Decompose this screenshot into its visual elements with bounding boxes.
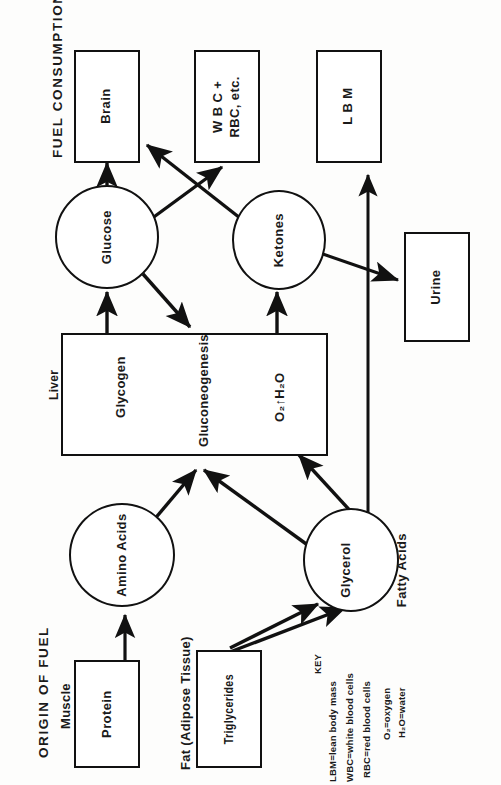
node-urine[interactable]: Urine — [404, 232, 470, 342]
group-label-fat-adipose-tissue: Fat (Adipose Tissue) — [178, 636, 193, 770]
key-entry-o2: O₂=oxygen — [381, 688, 392, 740]
node-amino-acids[interactable]: Amino Acids — [69, 503, 175, 607]
group-label-muscle: Muscle — [58, 683, 73, 729]
node-liver-compartment[interactable] — [61, 333, 328, 456]
key-entry-lbm: LBM=lean body mass — [327, 681, 338, 782]
node-ketones-label: Ketones — [271, 213, 287, 267]
arrow-glucose-to-gluconeogenesis — [143, 274, 190, 327]
node-protein[interactable]: Protein — [74, 660, 140, 768]
node-glycerol-fatty-acids[interactable]: Glycerol Fatty Acids — [303, 508, 399, 612]
page-title-fuel-consumption: FUEL CONSUMPTION — [50, 0, 65, 158]
node-wbc-rbc-label-line1: W B C + — [210, 76, 227, 137]
key-title: KEY — [312, 654, 323, 674]
diagram-canvas: FUEL CONSUMPTION ORIGIN OF FUEL Muscle F… — [0, 0, 501, 785]
node-triglycerides-label: Triglycerides — [221, 674, 237, 744]
node-protein-label: Protein — [99, 690, 115, 738]
key-entry-wbc: WBC=white blood cells — [344, 673, 355, 782]
node-wbc-rbc-label-line2: RBC, etc. — [227, 76, 244, 137]
node-wbc-rbc-label-group: W B C + RBC, etc. — [210, 76, 244, 137]
node-brain-label: Brain — [99, 89, 115, 124]
node-fatty-acids-label: Fatty Acids — [394, 533, 410, 607]
arrow-glycerol-to-gluconeogenesis — [204, 470, 309, 546]
node-lbm-label: L B M — [341, 88, 357, 125]
page-title-origin-of-fuel: ORIGIN OF FUEL — [36, 626, 51, 758]
key-entry-h2o: H₂O=water — [396, 687, 407, 738]
key-entry-rbc: RBC=red blood cells — [361, 681, 372, 778]
arrow-ketones-to-urine — [320, 253, 398, 280]
arrow-fatty-acids-to-oxidation — [299, 455, 355, 516]
node-urine-label: Urine — [429, 269, 445, 304]
node-oxidation-label: O₂↑H₂O — [272, 373, 287, 422]
node-glycerol-label: Glycerol — [338, 543, 354, 598]
node-wbc-rbc[interactable]: W B C + RBC, etc. — [194, 50, 260, 163]
node-glucose-label: Glucose — [99, 210, 115, 264]
node-gluconeogenesis-label: Gluconeogenesis — [196, 334, 211, 447]
arrow-glucose-to-wbc-rbc — [147, 167, 222, 222]
node-brain[interactable]: Brain — [74, 50, 140, 163]
node-glycogen-label: Glycogen — [113, 356, 128, 418]
node-amino-acids-label: Amino Acids — [114, 513, 130, 596]
group-label-liver: Liver — [47, 370, 61, 400]
node-lbm[interactable]: L B M — [316, 50, 382, 163]
key-legend: KEY LBM=lean body mass WBC=white blood c… — [312, 632, 462, 782]
node-triglycerides[interactable]: Triglycerides — [196, 650, 262, 768]
node-glucose[interactable]: Glucose — [55, 185, 159, 289]
arrow-triglycerides-to-glycerol — [230, 604, 318, 648]
arrow-amino-acids-to-gluconeogenesis — [153, 470, 196, 521]
node-ketones[interactable]: Ketones — [232, 190, 326, 290]
